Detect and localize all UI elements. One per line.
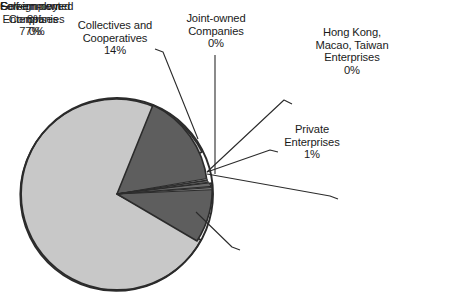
slice-percent-value: 14% [56, 44, 174, 57]
slice-label-line2: Enterprises [284, 136, 339, 148]
slice-label-private-enterprises: Private Enterprises 1% [268, 123, 356, 161]
slice-label-joint-owned-companies: Joint-owned Companies 0% [170, 12, 262, 50]
slice-label-line2: Companies [188, 25, 244, 37]
slice-percent-value: 1% [268, 148, 356, 161]
slice-percent-value: 0% [290, 64, 414, 77]
slice-label-line3: Enterprises [324, 51, 379, 63]
slice-percent-value: 0% [170, 37, 262, 50]
leader-line-foreign-owned-companies [207, 174, 338, 199]
slice-label-line2: Cooperatives [83, 32, 148, 44]
slice-label-hong-kong-macao-taiwan-enterprises: Hong Kong, Macao, Taiwan Enterprises 0% [290, 26, 414, 76]
slice-label-government-enterprises: Government Enterprises 77% [0, 0, 61, 38]
slice-label-line1: Government [0, 0, 61, 12]
slice-label-line1: Collectives and [78, 19, 152, 31]
slice-percent-value: 77% [0, 25, 61, 38]
pie-chart-figure: Collectives and Cooperatives 14% Joint-o… [0, 0, 458, 304]
slice-label-line1: Hong Kong, [323, 26, 381, 38]
slice-label-line1: Private [295, 123, 329, 135]
slice-label-collectives-and-cooperatives: Collectives and Cooperatives 14% [56, 19, 174, 57]
slice-label-line2: Macao, Taiwan [315, 39, 388, 51]
slice-label-line1: Joint-owned [186, 12, 245, 24]
slice-label-line2: Enterprises [3, 13, 58, 25]
